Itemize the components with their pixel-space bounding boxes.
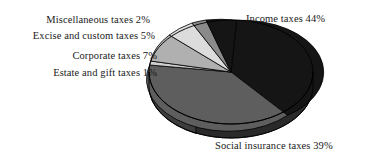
label-income-taxes: Income taxes 44%	[246, 13, 325, 25]
label-estate-and-gift-taxes: Estate and gift taxes 1%	[53, 67, 157, 79]
label-miscellaneous-taxes: Miscellaneous taxes 2%	[46, 14, 150, 26]
label-social-insurance-taxes: Social insurance taxes 39%	[215, 140, 333, 152]
pie-chart-figure: Miscellaneous taxes 2% Excise and custom…	[0, 0, 373, 160]
label-excise-and-custom-taxes: Excise and custom taxes 5%	[33, 30, 155, 42]
label-corporate-taxes: Corporate taxes 7%	[72, 50, 157, 62]
